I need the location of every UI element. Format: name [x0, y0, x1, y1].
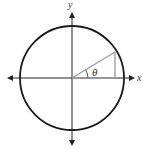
- unit-circle-diagram: θ x y: [0, 0, 143, 150]
- angle-label: θ: [92, 66, 98, 78]
- x-axis-label: x: [136, 72, 142, 83]
- y-axis-label: y: [67, 0, 73, 10]
- x-axis-left-arrow-icon: [7, 75, 13, 81]
- y-axis-down-arrow-icon: [69, 140, 75, 146]
- angle-arc: [86, 70, 88, 78]
- x-axis-right-arrow-icon: [129, 75, 135, 81]
- y-axis-up-arrow-icon: [69, 12, 75, 18]
